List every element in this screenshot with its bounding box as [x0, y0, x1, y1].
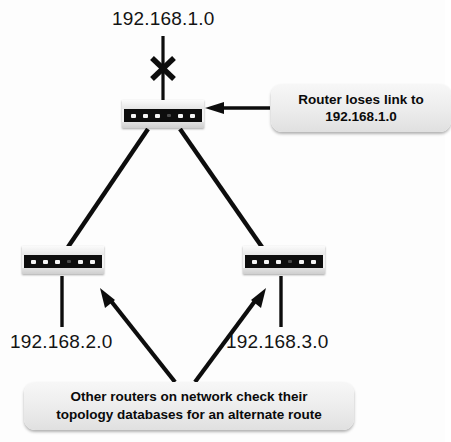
router-led: [167, 114, 171, 117]
router-chassis-top: [122, 100, 204, 109]
callout-topology-line1: Other routers on network check their: [70, 388, 307, 406]
router-led: [264, 260, 269, 264]
router-led: [178, 114, 183, 118]
router-chassis-base: [122, 122, 204, 128]
router-led: [78, 260, 83, 264]
router-led: [276, 260, 281, 264]
router-led-panel: [124, 109, 202, 122]
core-router-icon[interactable]: [122, 100, 204, 128]
router-led-panel: [245, 255, 323, 268]
router-led: [43, 260, 48, 264]
router-led: [90, 260, 95, 264]
link-line-core-to-left: [68, 129, 148, 247]
router-chassis-base: [243, 268, 325, 274]
right-router-icon[interactable]: [243, 246, 325, 274]
network-label-192-168-3-0: 192.168.3.0: [226, 331, 329, 353]
router-led: [190, 114, 195, 118]
callout-link-loss-line2: 192.168.1.0: [325, 108, 396, 125]
network-label-192-168-2-0: 192.168.2.0: [10, 331, 113, 353]
router-led: [31, 260, 36, 264]
router-led: [131, 114, 136, 118]
callout-link-loss-line1: Router loses link to: [298, 91, 423, 108]
link-line-core-to-right: [180, 129, 262, 247]
router-led-panel: [24, 255, 102, 268]
router-led: [67, 260, 71, 263]
router-chassis-top: [243, 246, 325, 255]
router-led: [55, 260, 60, 264]
router-led: [143, 114, 148, 118]
callout-topology-line2: topology databases for an alternate rout…: [56, 406, 322, 424]
pointer-arrow-to-core-router: [205, 102, 270, 114]
router-led: [252, 260, 257, 264]
router-chassis-base: [22, 268, 104, 274]
router-led: [288, 260, 292, 263]
router-led: [299, 260, 304, 264]
router-led: [311, 260, 316, 264]
network-label-192-168-1-0: 192.168.1.0: [112, 8, 215, 30]
callout-link-loss: Router loses link to 192.168.1.0: [271, 84, 451, 132]
left-router-icon[interactable]: [22, 246, 104, 274]
router-led: [155, 114, 160, 118]
router-chassis-top: [22, 246, 104, 255]
callout-topology-lookup: Other routers on network check their top…: [24, 382, 354, 430]
